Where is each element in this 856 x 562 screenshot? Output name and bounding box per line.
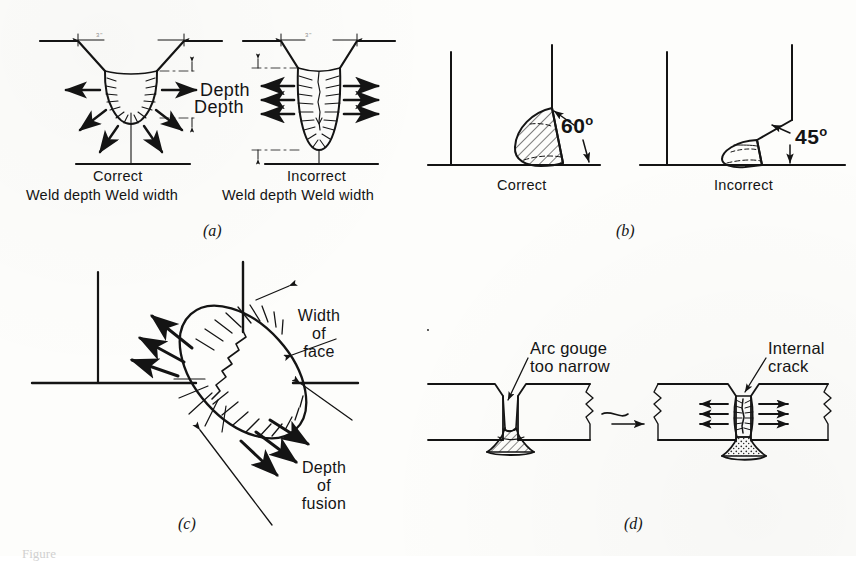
- panel-a-right-dimension: 3": [305, 32, 312, 39]
- panel-b-right-angle-value: 45: [795, 125, 819, 148]
- panel-a-left-subtitle: Weld depth Weld width: [26, 187, 178, 203]
- degree-symbol: o: [585, 113, 593, 128]
- width-of-face-line-2: of: [288, 325, 350, 343]
- arc-gouge-line-2: too narrow: [530, 357, 645, 375]
- panel-b-left-angle-value: 60: [561, 114, 585, 137]
- width-of-face-line-3: face: [288, 343, 350, 361]
- panel-c-depth-of-fusion-label: Depth of fusion: [288, 459, 360, 513]
- panel-d-transition: [602, 413, 644, 424]
- panel-c-letter: (c): [178, 515, 196, 533]
- panel-a-left-title: Correct: [93, 168, 143, 184]
- panel-a-right-depth-label: Depth: [194, 97, 244, 117]
- panel-b-incorrect: [640, 45, 845, 167]
- depth-of-fusion-line-3: fusion: [288, 495, 360, 513]
- depth-of-fusion-line-2: of: [288, 477, 360, 495]
- panel-b-correct: [428, 45, 600, 166]
- figure-caption: Figure: [22, 546, 56, 562]
- panel-a-right-subtitle: Weld depth Weld width: [222, 187, 374, 203]
- panel-b-left-title: Correct: [497, 177, 547, 193]
- internal-crack-line-2: crack: [768, 357, 853, 375]
- internal-crack-line-1: Internal: [768, 339, 853, 357]
- arc-gouge-line-1: Arc gouge: [530, 339, 645, 357]
- panel-a-incorrect: [243, 34, 395, 164]
- panel-a-letter: (a): [203, 222, 222, 240]
- panel-b-right-title: Incorrect: [714, 177, 773, 193]
- width-of-face-line-1: Width: [288, 307, 350, 325]
- panel-c-width-of-face-label: Width of face: [288, 307, 350, 361]
- panel-b-left-angle: 60o: [561, 114, 594, 138]
- degree-symbol: o: [819, 124, 827, 139]
- panel-a-right-title: Incorrect: [287, 168, 346, 184]
- panel-d-letter: (d): [624, 515, 643, 533]
- panel-a-left-dimension: 3": [96, 32, 103, 39]
- panel-b-right-angle: 45o: [795, 125, 828, 149]
- panel-d-internal-crack-label: Internal crack: [768, 339, 853, 376]
- panel-d-arc-gouge-label: Arc gouge too narrow: [530, 339, 645, 376]
- panel-b-letter: (b): [616, 222, 635, 240]
- depth-of-fusion-line-1: Depth: [288, 459, 360, 477]
